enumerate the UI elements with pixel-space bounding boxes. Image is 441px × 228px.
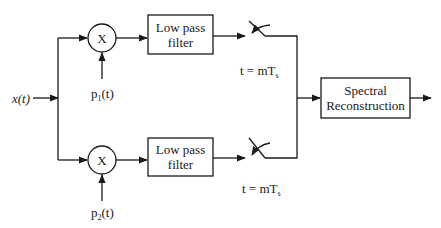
p1-label: p1(t) <box>91 86 114 103</box>
filter-top-line1: Low pass <box>156 20 205 35</box>
input-label: x(t) <box>11 91 30 106</box>
filter-top-line2: filter <box>168 35 194 50</box>
block-diagram: x(t) X p1(t) Low pass filter t = mTs X p… <box>0 0 441 228</box>
sampler-bottom-label: t = mTs <box>242 181 281 198</box>
filter-bottom-line2: filter <box>168 157 194 172</box>
sampler-top-label: t = mTs <box>240 63 279 80</box>
sampler-switch-bottom <box>249 138 265 158</box>
multiplier-bottom-symbol: X <box>97 153 107 168</box>
p2-label: p2(t) <box>91 205 114 222</box>
reconstruction-line1: Spectral <box>344 83 387 98</box>
multiplier-top-symbol: X <box>97 31 107 46</box>
reconstruction-line2: Reconstruction <box>326 98 405 113</box>
branch-top: X p1(t) Low pass filter t = mTs <box>58 15 297 103</box>
sampler-output-bottom <box>265 98 297 158</box>
branch-bottom: X p2(t) Low pass filter t = mTs <box>58 98 297 222</box>
filter-bottom-line1: Low pass <box>156 142 205 157</box>
